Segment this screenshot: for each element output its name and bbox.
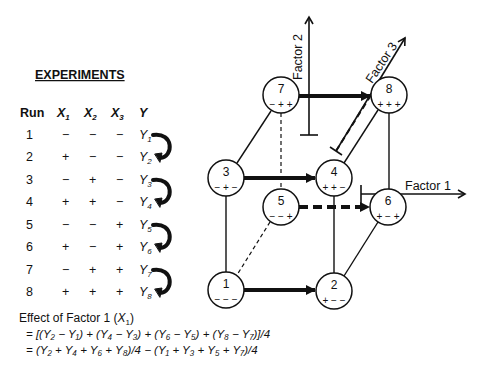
svg-text:+: +	[116, 240, 123, 254]
node-5: 5 − − +	[263, 189, 299, 225]
svg-text:+: +	[62, 285, 69, 299]
header-x2: X2	[83, 106, 97, 122]
table-header: Run X1 X2 X3 Y	[20, 106, 149, 122]
svg-text:−: −	[116, 195, 123, 209]
node-3: 3 − + −	[208, 160, 244, 196]
axis-labels: Factor 2 Factor 3 Factor 1	[291, 34, 451, 193]
svg-text:− − −: − − −	[214, 294, 237, 305]
svg-text:−: −	[62, 128, 69, 142]
header-run: Run	[20, 106, 44, 120]
svg-text:−: −	[116, 150, 123, 164]
svg-text:Y6: Y6	[139, 240, 152, 256]
svg-text:6: 6	[26, 240, 33, 254]
svg-text:7: 7	[278, 82, 285, 96]
cube-diagram	[226, 17, 465, 290]
svg-text:8: 8	[26, 285, 33, 299]
table-row: 6 + − + Y6	[26, 240, 152, 256]
svg-text:+: +	[62, 195, 69, 209]
svg-text:−: −	[62, 263, 69, 277]
factor-1-label: Factor 1	[405, 179, 451, 193]
svg-text:8: 8	[386, 82, 393, 96]
svg-text:+ + −: + + −	[322, 182, 345, 193]
svg-text:+: +	[62, 150, 69, 164]
svg-text:1: 1	[26, 128, 33, 142]
table-row: 1 − − − Y1	[26, 128, 152, 144]
svg-text:Y8: Y8	[139, 285, 152, 301]
effect-title: Effect of Factor 1 (X1)	[19, 311, 134, 327]
svg-text:+: +	[89, 285, 96, 299]
factor-2-label: Factor 2	[291, 34, 305, 80]
node-2: 2 + − −	[316, 273, 352, 309]
table-rows: 1 − − − Y1 2 + − − Y2 3 − + − Y3 4	[26, 128, 152, 301]
svg-text:−: −	[89, 218, 96, 232]
effect-formula: Effect of Factor 1 (X1) = [(Y₂ − Y₁) + (…	[19, 311, 270, 356]
svg-text:−: −	[116, 173, 123, 187]
table-row: 4 + + − Y4	[26, 195, 152, 211]
effect-line-2: = (Y₂ + Y₄ + Y₆ + Y₈)/4 − (Y₁ + Y₃ + Y₅ …	[26, 344, 258, 356]
svg-text:+ − +: + − +	[376, 211, 399, 222]
svg-text:+: +	[116, 218, 123, 232]
svg-text:Y7: Y7	[139, 263, 152, 279]
svg-text:+: +	[89, 263, 96, 277]
node-7: 7 − + +	[263, 77, 299, 113]
pair-arrows	[153, 135, 170, 297]
svg-text:− − +: − − +	[269, 211, 292, 222]
svg-text:−: −	[62, 218, 69, 232]
svg-text:4: 4	[26, 195, 33, 209]
svg-text:+: +	[62, 240, 69, 254]
svg-text:−: −	[116, 128, 123, 142]
experiments-table: EXPERIMENTS Run X1 X2 X3 Y 1 − − − Y1 2 …	[20, 68, 170, 301]
svg-text:1: 1	[223, 277, 230, 291]
svg-text:−: −	[89, 128, 96, 142]
svg-text:+: +	[89, 173, 96, 187]
svg-text:Y1: Y1	[139, 128, 152, 144]
svg-text:+: +	[116, 285, 123, 299]
experiments-title: EXPERIMENTS	[35, 68, 125, 82]
svg-text:7: 7	[26, 263, 33, 277]
table-row: 8 + + + Y8	[26, 285, 152, 301]
svg-text:2: 2	[331, 278, 338, 292]
svg-text:Y4: Y4	[139, 195, 152, 211]
svg-text:+ + +: + + +	[377, 99, 400, 110]
svg-text:−: −	[89, 240, 96, 254]
node-6: 6 + − +	[370, 189, 406, 225]
svg-text:− + −: − + −	[214, 182, 237, 193]
svg-text:3: 3	[223, 165, 230, 179]
header-y: Y	[139, 106, 149, 120]
node-4: 4 + + −	[316, 160, 352, 196]
header-x3: X3	[110, 106, 124, 122]
table-row: 5 − − + Y5	[26, 218, 152, 234]
table-row: 3 − + − Y3	[26, 173, 152, 189]
svg-text:Y3: Y3	[139, 173, 152, 189]
svg-text:Y5: Y5	[139, 218, 152, 234]
svg-text:− + +: − + +	[269, 99, 292, 110]
svg-text:−: −	[62, 173, 69, 187]
header-x1: X1	[56, 106, 70, 122]
svg-text:6: 6	[385, 194, 392, 208]
table-row: 7 − + + Y7	[26, 263, 152, 279]
svg-text:2: 2	[26, 150, 33, 164]
table-row: 2 + − − Y2	[26, 150, 152, 166]
svg-text:+: +	[89, 195, 96, 209]
svg-text:+ − −: + − −	[322, 295, 345, 306]
svg-text:5: 5	[278, 194, 285, 208]
svg-text:5: 5	[26, 218, 33, 232]
svg-text:−: −	[89, 150, 96, 164]
svg-text:+: +	[116, 263, 123, 277]
effect-line-1: = [(Y₂ − Y₁) + (Y₄ − Y₃) + (Y₆ − Y₅) + (…	[26, 328, 270, 340]
svg-text:4: 4	[331, 165, 338, 179]
node-8: 8 + + +	[371, 77, 407, 113]
svg-text:3: 3	[26, 173, 33, 187]
node-1: 1 − − −	[208, 272, 244, 308]
svg-text:Y2: Y2	[139, 150, 152, 166]
factorial-design-figure: EXPERIMENTS Run X1 X2 X3 Y 1 − − − Y1 2 …	[0, 0, 481, 375]
